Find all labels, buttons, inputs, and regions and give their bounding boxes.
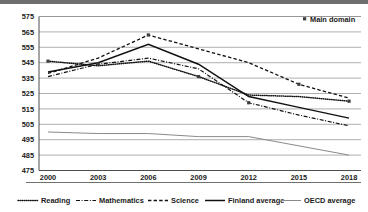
main-domain-marker	[297, 83, 300, 86]
legend: ReadingMathematicsScienceFinland average…	[18, 196, 355, 205]
x-axis-tick-label: 2000	[40, 173, 56, 182]
series-line-reading	[48, 61, 349, 101]
line-chart: 575565555545535525515505495485475 200020…	[0, 0, 368, 212]
y-axis-tick-label: 575	[22, 12, 34, 21]
series-line-oecd-average	[48, 132, 349, 155]
x-axis-tick-label: 2012	[240, 173, 256, 182]
top-rule	[0, 0, 368, 4]
y-axis-tick-label: 515	[22, 105, 34, 114]
main-domain-marker	[247, 101, 250, 104]
main-domain-annotation: Main domain	[303, 15, 356, 24]
y-axis-tick-label: 545	[22, 58, 34, 67]
series-lines	[48, 35, 349, 155]
y-axis-tick-label: 535	[22, 74, 34, 83]
y-axis-tick-label: 485	[22, 151, 34, 160]
legend-label-mathematics: Mathematics	[99, 196, 144, 205]
y-axis-tick-label: 525	[22, 89, 34, 98]
x-axis-tick-label: 2006	[140, 173, 156, 182]
y-axis-tick-label: 475	[22, 166, 34, 175]
x-axis-tick-labels: 2000200320062009201220152018	[40, 173, 358, 182]
series-line-mathematics	[48, 58, 349, 126]
x-axis-tick-label: 2009	[190, 173, 206, 182]
main-domain-marker	[347, 100, 350, 103]
legend-label-finland-average: Finland average	[228, 196, 284, 205]
axis-lines	[26, 17, 361, 183]
y-axis-tick-label: 565	[22, 28, 34, 37]
y-axis-tick-label: 505	[22, 120, 34, 129]
chart-container: 575565555545535525515505495485475 200020…	[0, 0, 368, 212]
legend-label-oecd-average: OECD average	[304, 196, 355, 205]
gridlines	[39, 17, 361, 171]
y-axis-tick-label: 495	[22, 135, 34, 144]
legend-label-science: Science	[171, 196, 199, 205]
series-line-science	[48, 35, 349, 98]
x-axis-tick-label: 2015	[291, 173, 307, 182]
x-axis-tick-label: 2003	[90, 173, 106, 182]
series-line-finland-average	[48, 44, 349, 118]
x-axis-tick-label: 2018	[341, 173, 357, 182]
main-domain-marker-icon	[303, 17, 306, 20]
main-domain-marker	[197, 75, 200, 78]
y-axis-tick-label: 555	[22, 43, 34, 52]
main-domain-marker	[147, 33, 150, 36]
y-axis-tick-labels: 575565555545535525515505495485475	[22, 12, 34, 175]
main-domain-marker	[46, 60, 49, 63]
main-domain-label: Main domain	[310, 15, 356, 24]
main-domain-marker	[97, 63, 100, 66]
legend-label-reading: Reading	[41, 196, 71, 205]
